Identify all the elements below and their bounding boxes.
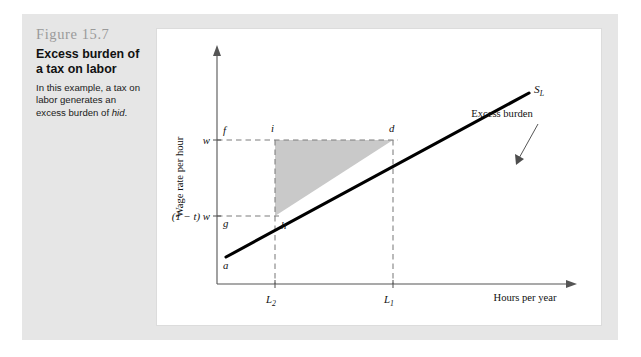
y-axis-arrow-icon: [213, 45, 221, 56]
figure-description-emphasis: hid: [112, 107, 125, 118]
figure-title-line-1: Excess burden of: [36, 47, 139, 61]
point-label-a: a: [223, 259, 228, 271]
x-tick-label-L1-sub: 1: [390, 299, 394, 308]
curve-label-SL: SL: [534, 83, 544, 98]
figure-caption-block: Figure 15.7 Excess burden of a tax on la…: [36, 26, 148, 120]
figure-description-line-1: In this example, a tax on: [36, 82, 140, 93]
point-label-g: g: [223, 217, 229, 229]
figure-title: Excess burden of a tax on labor: [36, 47, 148, 78]
curve-label-SL-sub: L: [539, 89, 544, 98]
x-axis-title: Hours per year: [494, 292, 557, 303]
x-tick-label-L1: L1: [383, 293, 394, 308]
y-axis-title: Wage rate per hour: [174, 136, 185, 217]
figure-description-line-3-prefix: burden of: [69, 107, 112, 118]
y-tick-label-net-wage: (1 − t) w: [172, 210, 211, 223]
chart-svg: Wage rate per hour Hours per year w (1 −…: [157, 29, 603, 327]
x-axis-arrow-icon: [566, 280, 577, 288]
annotation-arrow-icon: [515, 154, 524, 165]
chart-panel: Wage rate per hour Hours per year w (1 −…: [156, 28, 602, 326]
point-label-d: d: [389, 122, 395, 134]
figure-description: In this example, a tax on labor generate…: [36, 82, 148, 120]
excess-burden-region: [275, 140, 393, 216]
x-tick-label-L2-sub: 2: [272, 299, 276, 308]
x-tick-label-L2-base: L: [265, 293, 272, 305]
figure-root: Figure 15.7 Excess burden of a tax on la…: [0, 0, 641, 357]
point-label-f: f: [223, 124, 228, 136]
point-label-i: i: [271, 122, 274, 134]
point-label-h: h: [281, 219, 286, 231]
figure-number: Figure 15.7: [36, 26, 148, 43]
x-tick-label-L1-base: L: [383, 293, 390, 305]
y-tick-label-w: w: [203, 134, 211, 146]
figure-description-line-3-suffix: .: [125, 107, 128, 118]
x-tick-label-L2: L2: [265, 293, 276, 308]
figure-title-line-2: a tax on labor: [36, 62, 117, 76]
annotation-excess-burden: Excess burden: [471, 108, 533, 119]
annotation-leader-line: [518, 124, 538, 160]
